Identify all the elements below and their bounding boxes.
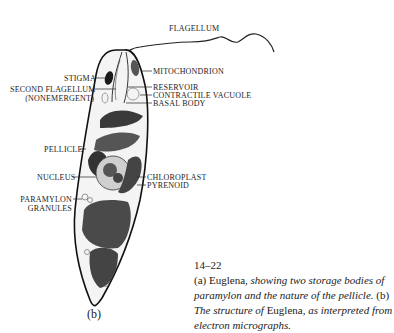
label-stigma: STIGMA bbox=[64, 74, 96, 83]
panel-label: (b) bbox=[87, 307, 101, 322]
label-paramylon-line1: PARAMYLON bbox=[20, 195, 72, 204]
caption-a-name: Euglena bbox=[209, 274, 245, 286]
caption-b-name: Euglena bbox=[267, 304, 303, 316]
label-second-flagellum-line1: SECOND FLAGELLUM bbox=[10, 85, 96, 94]
label-paramylon-granules: PARAMYLON GRANULES bbox=[18, 195, 72, 213]
caption-b-text1: The structure of bbox=[194, 304, 267, 316]
flagellum-line bbox=[124, 34, 274, 58]
label-basal-body: BASAL BODY bbox=[153, 99, 206, 108]
caption-a-label: (a) bbox=[194, 274, 209, 286]
label-second-flagellum-line2: (NONEMERGENT) bbox=[25, 94, 94, 103]
label-paramylon-line2: GRANULES bbox=[28, 204, 72, 213]
caption-b-label: (b) bbox=[374, 289, 390, 301]
label-flagellum: FLAGELLUM bbox=[169, 24, 219, 33]
figure-caption: 14–22 (a) Euglena, showing two storage b… bbox=[194, 258, 394, 333]
label-second-flagellum: SECOND FLAGELLUM (NONEMERGENT) bbox=[10, 85, 94, 103]
label-nucleus: NUCLEUS bbox=[37, 173, 75, 182]
label-pellicle: PELLICLE bbox=[44, 145, 82, 154]
label-mitochondrion: MITOCHONDRION bbox=[153, 67, 224, 76]
figure-number: 14–22 bbox=[194, 258, 394, 273]
label-pyrenoid: PYRENOID bbox=[147, 181, 189, 190]
